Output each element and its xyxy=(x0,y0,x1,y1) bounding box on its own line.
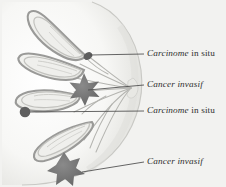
label-term: Carcinome xyxy=(147,105,189,115)
in-situ-lobule-nodule-marker xyxy=(20,107,31,118)
label-term: Cancer invasif xyxy=(147,156,203,166)
label-cancer-invasif-upper: Cancer invasif xyxy=(147,80,203,89)
label-term: Cancer invasif xyxy=(147,79,203,89)
figure-canvas: Carcinome in situ Cancer invasif Carcino… xyxy=(0,0,226,187)
label-carcinome-in-situ-lower: Carcinome in situ xyxy=(147,106,215,115)
label-term: Carcinome xyxy=(147,48,189,58)
label-carcinome-in-situ-upper: Carcinome in situ xyxy=(147,49,215,58)
label-tail: in situ xyxy=(189,48,215,58)
label-tail: in situ xyxy=(189,105,215,115)
label-cancer-invasif-lower: Cancer invasif xyxy=(147,157,203,166)
